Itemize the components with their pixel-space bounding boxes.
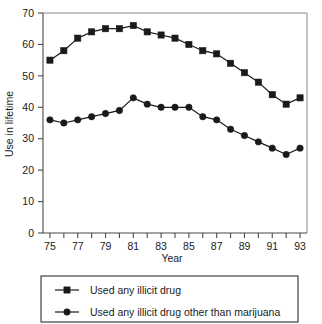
data-point <box>116 107 122 113</box>
data-point <box>269 145 275 151</box>
x-tick-label: 85 <box>183 240 195 252</box>
data-point <box>102 110 108 116</box>
data-point <box>130 95 136 101</box>
data-point <box>283 101 289 107</box>
data-point <box>144 101 150 107</box>
data-point <box>102 26 108 32</box>
chart-figure: 010203040506070 75777981838587899193 Use… <box>0 0 322 324</box>
data-point <box>75 35 81 41</box>
line-chart: 010203040506070 75777981838587899193 Use… <box>0 0 322 324</box>
y-tick-label: 70 <box>22 7 34 19</box>
data-point <box>255 139 261 145</box>
y-axis-ticks: 010203040506070 <box>22 7 43 239</box>
data-point <box>172 104 178 110</box>
x-tick-label: 91 <box>266 240 278 252</box>
data-point <box>61 48 67 54</box>
data-point <box>297 145 303 151</box>
data-point <box>47 117 53 123</box>
data-point <box>172 35 178 41</box>
x-tick-label: 83 <box>155 240 167 252</box>
series-2 <box>47 95 304 158</box>
y-tick-label: 40 <box>22 101 34 113</box>
legend-label: Used any illicit drug other than marijua… <box>90 306 280 318</box>
x-tick-label: 87 <box>211 240 223 252</box>
data-point <box>116 26 122 32</box>
legend: Used any illicit drugUsed any illicit dr… <box>41 276 298 322</box>
x-tick-label: 93 <box>294 240 306 252</box>
data-point <box>158 32 164 38</box>
x-tick-label: 75 <box>44 240 56 252</box>
data-point <box>186 104 192 110</box>
x-axis-title: Year <box>161 252 183 264</box>
x-tick-label: 89 <box>239 240 251 252</box>
data-point <box>88 114 94 120</box>
data-point <box>269 92 275 98</box>
legend-circle-marker-icon <box>64 309 70 315</box>
series-layer <box>47 22 304 157</box>
y-tick-label: 30 <box>22 132 34 144</box>
legend-square-marker-icon <box>64 287 70 293</box>
x-tick-label: 81 <box>127 240 139 252</box>
data-point <box>297 95 303 101</box>
y-tick-label: 20 <box>22 164 34 176</box>
y-tick-label: 10 <box>22 195 34 207</box>
plot-frame <box>43 13 307 233</box>
data-point <box>200 114 206 120</box>
x-tick-label: 79 <box>100 240 112 252</box>
data-point <box>213 117 219 123</box>
y-tick-label: 50 <box>22 70 34 82</box>
data-point <box>186 41 192 47</box>
legend-label: Used any illicit drug <box>90 284 181 296</box>
data-point <box>61 120 67 126</box>
data-point <box>255 79 261 85</box>
data-point <box>130 22 136 28</box>
data-point <box>47 57 53 63</box>
series-1 <box>47 22 303 107</box>
y-tick-label: 0 <box>28 227 34 239</box>
data-point <box>144 29 150 35</box>
y-axis-title: Use in lifetime <box>3 91 15 157</box>
data-point <box>227 60 233 66</box>
x-axis-ticks: 75777981838587899193 <box>44 233 306 252</box>
data-point <box>200 48 206 54</box>
data-point <box>89 29 95 35</box>
data-point <box>214 51 220 57</box>
x-tick-label: 77 <box>72 240 84 252</box>
data-point <box>227 126 233 132</box>
data-point <box>75 117 81 123</box>
data-point <box>283 151 289 157</box>
data-point <box>241 132 247 138</box>
data-point <box>158 104 164 110</box>
y-tick-label: 60 <box>22 38 34 50</box>
data-point <box>241 70 247 76</box>
